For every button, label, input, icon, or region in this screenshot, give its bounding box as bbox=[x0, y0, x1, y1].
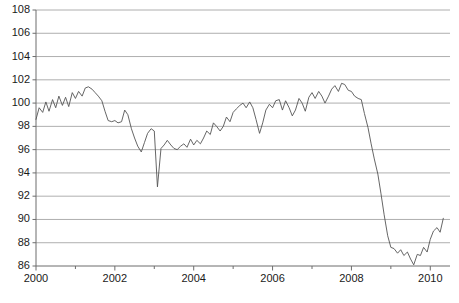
y-tick-label: 92 bbox=[18, 190, 30, 201]
x-tick-label: 2000 bbox=[16, 273, 56, 284]
x-tick-label: 2008 bbox=[331, 273, 371, 284]
y-tick-label: 94 bbox=[18, 167, 30, 178]
y-tick-label: 104 bbox=[12, 51, 30, 62]
x-tick-label: 2010 bbox=[410, 273, 450, 284]
y-tick-label: 108 bbox=[12, 4, 30, 15]
y-axis-ticks bbox=[33, 10, 37, 266]
x-tick-label: 2002 bbox=[95, 273, 135, 284]
y-tick-label: 88 bbox=[18, 237, 30, 248]
y-tick-label: 102 bbox=[12, 74, 30, 85]
x-axis-ticks bbox=[36, 266, 430, 271]
x-tick-label: 2004 bbox=[174, 273, 214, 284]
gridlines bbox=[36, 10, 450, 243]
y-tick-label: 96 bbox=[18, 144, 30, 155]
y-tick-label: 106 bbox=[12, 27, 30, 38]
y-tick-label: 86 bbox=[18, 260, 30, 271]
y-tick-label: 100 bbox=[12, 97, 30, 108]
y-tick-label: 98 bbox=[18, 120, 30, 131]
line-chart: 86889092949698100102104106108 2000200220… bbox=[0, 0, 459, 303]
y-tick-label: 90 bbox=[18, 213, 30, 224]
data-series-line bbox=[36, 83, 443, 265]
x-tick-label: 2006 bbox=[253, 273, 293, 284]
chart-plot-area bbox=[0, 0, 459, 303]
